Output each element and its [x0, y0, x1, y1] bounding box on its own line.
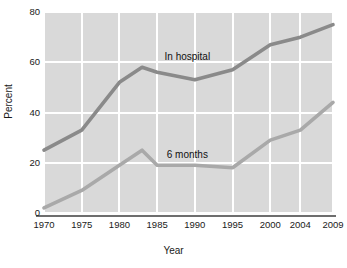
series-lines: [44, 12, 333, 213]
x-tick-label-1995: 1995: [222, 219, 243, 230]
line-in-hospital: [44, 25, 333, 151]
x-axis-line: [36, 215, 336, 217]
x-tick-label-1970: 1970: [33, 219, 54, 230]
series-label-six-months: 6 months: [167, 149, 208, 160]
y-tick-label-20: 20: [2, 158, 40, 168]
x-tick-label-1990: 1990: [184, 219, 205, 230]
x-tick-label-2009: 2009: [322, 219, 343, 230]
x-axis-title: Year: [0, 245, 347, 256]
y-tick-label-80: 80: [2, 7, 40, 17]
x-tick-label-2004: 2004: [290, 219, 311, 230]
x-tick-label-1975: 1975: [71, 219, 92, 230]
y-axis-title: Percent: [3, 72, 14, 132]
y-tick-label-60: 60: [2, 57, 40, 67]
y-tick-label-0: 0: [2, 208, 40, 218]
x-tick-label-1985: 1985: [147, 219, 168, 230]
chart-figure: In hospital 6 months 020406080 197019751…: [0, 0, 347, 268]
x-tick-label-1980: 1980: [109, 219, 130, 230]
x-tick-label-2000: 2000: [260, 219, 281, 230]
series-label-in-hospital: In hospital: [165, 51, 211, 62]
plot-area: In hospital 6 months: [44, 12, 333, 213]
